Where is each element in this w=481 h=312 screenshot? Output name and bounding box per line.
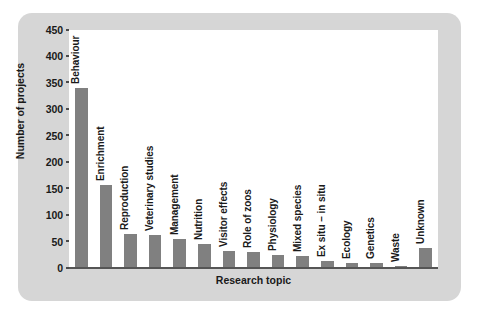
y-axis-tick: 0	[18, 262, 69, 274]
bar-category-label: Unknown	[415, 199, 426, 244]
bar	[173, 239, 186, 268]
bar	[124, 234, 137, 268]
bar-series: BehaviourEnrichmentReproductionVeterinar…	[69, 30, 438, 268]
bar-category-label: Mixed species	[292, 185, 303, 252]
x-axis-baseline	[69, 267, 438, 269]
bar-category-label: Genetics	[365, 217, 376, 259]
bar-chart-figure: 450400350300250200150100500 BehaviourEnr…	[0, 0, 481, 312]
bar	[247, 252, 260, 268]
bar-category-label: Nutrition	[193, 199, 204, 240]
bar-category-label: Ecology	[341, 220, 352, 259]
bar-group: Genetics	[370, 30, 383, 268]
bar	[198, 244, 211, 268]
bar-category-label: Reproduction	[119, 165, 130, 229]
bar	[419, 248, 432, 268]
bar	[75, 88, 88, 268]
y-axis-tick-label: 450	[46, 24, 63, 36]
bar	[100, 185, 113, 268]
y-axis-tick-label: 350	[46, 77, 63, 89]
bar-category-label: Physiology	[267, 198, 278, 251]
bar-group: Mixed species	[296, 30, 309, 268]
bar-group: Management	[173, 30, 186, 268]
bar-group: Enrichment	[100, 30, 113, 268]
x-axis-title: Research topic	[69, 274, 438, 286]
y-axis-tick: 100	[18, 209, 69, 221]
y-axis-tick-label: 150	[46, 183, 63, 195]
bar-category-label: Role of zoos	[242, 189, 253, 248]
y-axis-tick-label: 100	[46, 209, 63, 221]
bar-group: Ex situ – in situ	[321, 30, 334, 268]
bar-category-label: Waste	[390, 233, 401, 262]
bar-group: Veterinary studies	[149, 30, 162, 268]
bar-category-label: Visitor effects	[218, 182, 229, 247]
bar-group: Visitor effects	[223, 30, 236, 268]
bar-category-label: Veterinary studies	[144, 146, 155, 231]
bar-group: Waste	[395, 30, 408, 268]
bar-category-label: Behaviour	[70, 36, 81, 84]
bar	[223, 251, 236, 268]
y-axis-title: Number of projects	[14, 31, 26, 191]
y-axis-tick-label: 0	[57, 262, 63, 274]
y-axis: 450400350300250200150100500	[18, 13, 73, 301]
bar-category-label: Management	[169, 174, 180, 235]
y-axis-tick: 50	[18, 236, 69, 248]
bar-group: Physiology	[272, 30, 285, 268]
bar-group: Ecology	[346, 30, 359, 268]
y-axis-tick-label: 400	[46, 50, 63, 62]
y-axis-tick-label: 300	[46, 103, 63, 115]
bar-category-label: Enrichment	[95, 126, 106, 181]
bar-group: Reproduction	[124, 30, 137, 268]
bar-group: Nutrition	[198, 30, 211, 268]
bar	[149, 235, 162, 268]
bar-group: Role of zoos	[247, 30, 260, 268]
y-axis-tick-label: 50	[52, 236, 63, 248]
bar-category-label: Ex situ – in situ	[316, 185, 327, 258]
y-axis-tick-label: 250	[46, 130, 63, 142]
bar-group: Unknown	[419, 30, 432, 268]
bar-group: Behaviour	[75, 30, 88, 268]
y-axis-tick-label: 200	[46, 156, 63, 168]
